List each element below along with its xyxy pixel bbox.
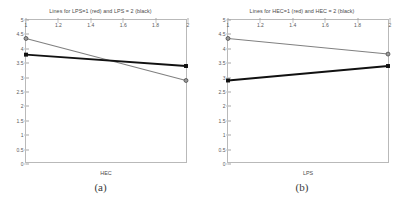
y-tick-label: 3.5 — [17, 60, 24, 66]
y-tick-label: 5 — [223, 17, 226, 23]
y-tick-label: 0 — [21, 161, 24, 167]
x-axis-label-b: LPS — [228, 170, 388, 176]
x-tick-mark-top — [188, 20, 189, 23]
y-tick-label: 4.5 — [219, 31, 226, 37]
y-tick-label: 0 — [223, 161, 226, 167]
y-tick-label: 1.5 — [219, 118, 226, 124]
y-tick-mark — [26, 164, 29, 165]
panel-a: Lines for LPS=1 (red) and LPS = 2 (black… — [0, 0, 201, 206]
panel-b: Lines for HEC=1 (red) and HEC = 2 (black… — [201, 0, 403, 206]
y-tick-label: 1 — [21, 132, 24, 138]
data-point-marker-square — [184, 64, 188, 68]
x-tick-mark — [390, 18, 391, 21]
y-tick-label: 0.5 — [219, 147, 226, 153]
panel-caption-a: (a) — [0, 181, 201, 193]
y-tick-label: 2 — [21, 103, 24, 109]
y-tick-label: 0.5 — [17, 147, 24, 153]
series-polyline — [26, 55, 186, 66]
y-tick-label: 4 — [223, 46, 226, 52]
series-line — [24, 53, 188, 68]
data-point-marker-circle — [184, 79, 188, 83]
series-polyline — [228, 66, 388, 80]
figure-two-panel-interaction-plots: Lines for LPS=1 (red) and LPS = 2 (black… — [0, 0, 403, 206]
x-tick-mark-top — [390, 20, 391, 23]
chart-title-a: Lines for LPS=1 (red) and LPS = 2 (black… — [0, 8, 201, 14]
y-tick-label: 2.5 — [17, 89, 24, 95]
data-point-marker-circle — [24, 36, 28, 40]
y-tick-label: 3 — [21, 75, 24, 81]
data-point-marker-square — [24, 53, 28, 57]
x-tick-mark — [188, 18, 189, 21]
x-axis-label-a: HEC — [26, 170, 186, 176]
y-tick-label: 1 — [223, 132, 226, 138]
series-polyline — [228, 38, 388, 54]
y-tick-label: 4.5 — [17, 31, 24, 37]
panel-caption-b: (b) — [201, 181, 403, 193]
y-tick-label: 4 — [21, 46, 24, 52]
x-tick-label: 2 — [389, 22, 392, 28]
y-tick-mark — [228, 164, 231, 165]
y-tick-mark-right — [226, 164, 229, 165]
plot-area-b: 00.511.522.533.544.55 11.21.41.61.82 LPS — [227, 19, 389, 163]
y-tick-label: 3 — [223, 75, 226, 81]
y-tick-label: 2 — [223, 103, 226, 109]
series-layer-a — [26, 20, 186, 162]
y-tick-mark-right — [24, 164, 27, 165]
series-line — [226, 64, 390, 82]
data-point-marker-square — [226, 79, 230, 83]
y-tick-label: 5 — [21, 17, 24, 23]
chart-title-b: Lines for HEC=1 (red) and HEC = 2 (black… — [201, 8, 403, 14]
series-line — [226, 36, 390, 56]
series-layer-b — [228, 20, 388, 162]
x-tick-label: 2 — [187, 22, 190, 28]
plot-area-a: 00.511.522.533.544.55 11.21.41.61.82 HEC — [25, 19, 187, 163]
y-tick-label: 3.5 — [219, 60, 226, 66]
data-point-marker-circle — [386, 52, 390, 56]
data-point-marker-square — [386, 64, 390, 68]
y-tick-label: 2.5 — [219, 89, 226, 95]
data-point-marker-circle — [226, 36, 230, 40]
y-tick-label: 1.5 — [17, 118, 24, 124]
